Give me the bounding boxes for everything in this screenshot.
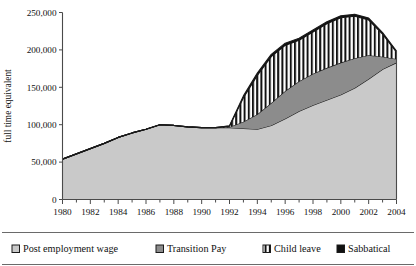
y-tick-label-1: 200,000 bbox=[27, 45, 57, 55]
legend-item-0: Post employment wage bbox=[12, 243, 119, 254]
x-tick-label-2: 1984 bbox=[109, 207, 128, 217]
x-tick-label-9: 1998 bbox=[304, 207, 323, 217]
x-tick-label-0: 1980 bbox=[53, 207, 72, 217]
legend-item-1: Transition Pay bbox=[156, 243, 227, 254]
x-tick-label-5: 1990 bbox=[192, 207, 211, 217]
plot-series-group bbox=[63, 14, 397, 199]
legend-swatch-black bbox=[337, 245, 345, 253]
x-tick-label-1: 1982 bbox=[81, 207, 100, 217]
legend-swatch-dark-gray bbox=[156, 245, 164, 253]
x-tick-label-3: 1986 bbox=[137, 207, 156, 217]
x-tick-label-11: 2002 bbox=[359, 207, 378, 217]
y-tick-label-4: 50,000 bbox=[31, 157, 57, 167]
y-tick-label-5: 0 bbox=[52, 195, 57, 205]
x-tick-label-12: 2004 bbox=[387, 207, 406, 217]
y-tick-label-2: 150,000 bbox=[27, 83, 57, 93]
legend-label-1: Transition Pay bbox=[167, 243, 227, 254]
y-tick-label-3: 100,000 bbox=[27, 120, 57, 130]
legend-item-2: Child leave bbox=[263, 243, 321, 254]
stacked-area-chart: 250,000200,000150,000100,00050,000019801… bbox=[0, 0, 416, 266]
legend-item-3: Sabbatical bbox=[337, 243, 391, 254]
legend-label-0: Post employment wage bbox=[23, 243, 119, 254]
chart-container: 250,000200,000150,000100,00050,000019801… bbox=[0, 0, 416, 266]
legend-label-2: Child leave bbox=[274, 243, 321, 254]
legend-swatch-striped bbox=[263, 245, 271, 253]
chart-legend: Post employment wageTransition PayChild … bbox=[2, 233, 414, 265]
x-tick-label-10: 2000 bbox=[332, 207, 351, 217]
y-axis-title-group: full time equivalent bbox=[3, 69, 13, 143]
legend-label-3: Sabbatical bbox=[348, 243, 391, 254]
x-tick-label-4: 1988 bbox=[165, 207, 184, 217]
y-tick-label-0: 250,000 bbox=[27, 8, 57, 18]
legend-swatch-light-gray bbox=[12, 245, 20, 253]
x-tick-label-8: 1996 bbox=[276, 207, 295, 217]
x-tick-label-6: 1992 bbox=[220, 207, 239, 217]
y-axis-title: full time equivalent bbox=[3, 69, 13, 143]
x-tick-label-7: 1994 bbox=[248, 207, 267, 217]
